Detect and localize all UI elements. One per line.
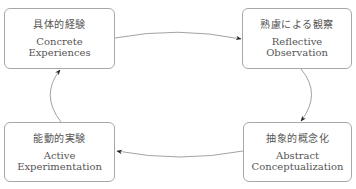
node-label-en-line2: Conceptualization <box>244 161 351 172</box>
node-active-experimentation: 能動的実験 Active Experimentation <box>4 122 115 182</box>
node-label-en-line2: Observation <box>243 47 351 58</box>
node-concrete-experiences: 具体的経験 Concrete Experiences <box>4 8 115 69</box>
node-label-jp: 能動的実験 <box>5 133 114 145</box>
node-label-en: Concrete Experiences <box>5 36 114 58</box>
arrow-reflective-to-abstract <box>301 69 312 121</box>
node-label-en: Active Experimentation <box>5 150 114 172</box>
node-label-en-line1: Reflective <box>243 36 351 47</box>
node-label-en: Abstract Conceptualization <box>244 150 351 172</box>
node-label-en: Reflective Observation <box>243 36 351 58</box>
arrow-active-to-concrete <box>50 70 61 122</box>
node-label-en-line1: Active <box>5 150 114 161</box>
node-label-en-line2: Experiences <box>5 47 114 58</box>
node-reflective-observation: 熟慮による観察 Reflective Observation <box>242 8 352 69</box>
node-label-jp: 具体的経験 <box>5 19 114 31</box>
node-label-jp: 抽象的概念化 <box>244 133 351 145</box>
node-label-en-line1: Abstract <box>244 150 351 161</box>
node-label-jp: 熟慮による観察 <box>243 19 351 31</box>
node-label-en-line1: Concrete <box>5 36 114 47</box>
arrow-abstract-to-active <box>117 151 243 157</box>
node-label-en-line2: Experimentation <box>5 161 114 172</box>
arrow-concrete-to-reflective <box>115 32 241 39</box>
node-abstract-conceptualization: 抽象的概念化 Abstract Conceptualization <box>243 122 352 182</box>
